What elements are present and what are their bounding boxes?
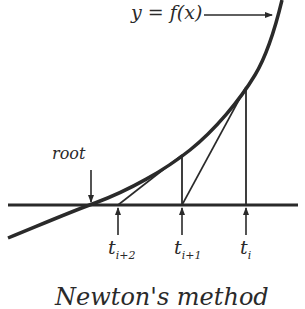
iterate-base: t bbox=[240, 236, 248, 258]
iterate-label-t-i1: ti+1 bbox=[174, 236, 201, 262]
iterate-label-t-i: ti bbox=[240, 236, 251, 262]
iterate-subscript: i+1 bbox=[182, 249, 202, 262]
iterate-subscript: i+2 bbox=[116, 249, 136, 262]
iterate-base: t bbox=[174, 236, 182, 258]
tangent-line-t-i bbox=[182, 87, 246, 205]
tangent-line-t-i1 bbox=[118, 155, 182, 205]
iterate-subscript: i bbox=[248, 249, 252, 262]
iterate-label-t-i2: ti+2 bbox=[108, 236, 135, 262]
root-label: root bbox=[52, 144, 85, 163]
iterate-base: t bbox=[108, 236, 116, 258]
curve-label: y = f(x) bbox=[131, 1, 202, 23]
function-curve bbox=[8, 0, 282, 238]
diagram-caption: Newton's method bbox=[55, 283, 269, 309]
